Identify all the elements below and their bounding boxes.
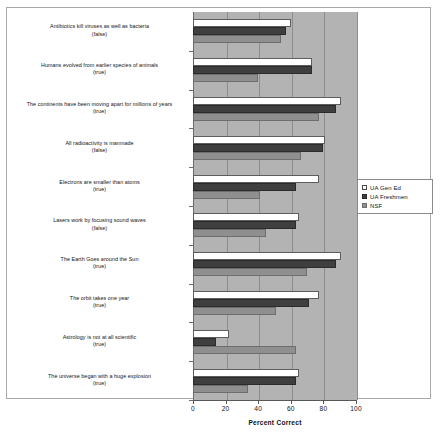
y-axis-tick: [189, 361, 193, 362]
x-axis-tick: [258, 400, 259, 404]
x-axis-tick-label: 60: [278, 405, 304, 412]
category-truth-value: (true): [8, 108, 191, 115]
y-axis-tick: [189, 167, 193, 168]
category-truth-value: (true): [8, 380, 191, 387]
category-question: Lasers work by focusing sound waves: [53, 217, 146, 223]
legend-entry-nsf[interactable]: NSF: [362, 201, 429, 210]
bar: [193, 268, 307, 276]
category-label: Humans evolved from earlier species of a…: [8, 62, 191, 76]
category-question: Astrology is not at all scientific: [63, 334, 137, 340]
bar: [193, 152, 301, 160]
category-label: All radioactivity is manmade(false): [8, 140, 191, 154]
bar: [193, 58, 312, 66]
category-label-column: Antibiotics kill viruses as well as bact…: [8, 12, 191, 400]
category-question: Humans evolved from earlier species of a…: [41, 62, 158, 68]
x-axis-tick-label: 40: [245, 405, 271, 412]
bar: [193, 330, 229, 338]
chart-figure: Antibiotics kill viruses as well as bact…: [0, 0, 440, 448]
category-question: The universe began with a huge explosion: [48, 373, 151, 379]
y-axis-tick: [189, 284, 193, 285]
x-axis-line: [193, 400, 357, 401]
filled-grey-square-icon: [362, 203, 367, 208]
legend-entry-ua-freshmen[interactable]: UA Freshmen: [362, 192, 429, 201]
bar: [193, 27, 286, 35]
category-question: Antibiotics kill viruses as well as bact…: [50, 23, 149, 29]
filled-dark-square-icon: [362, 194, 367, 199]
legend-entry-ua-gen-ed[interactable]: UA Gen Ed: [362, 183, 429, 192]
x-axis-tick-label: 0: [180, 405, 206, 412]
bar: [193, 346, 296, 354]
category-truth-value: (true): [8, 341, 191, 348]
category-question: The orbit takes one year: [70, 295, 129, 301]
category-truth-value: (false): [8, 147, 191, 154]
x-axis-tick: [226, 400, 227, 404]
y-axis-tick: [189, 90, 193, 91]
category-label: Antibiotics kill viruses as well as bact…: [8, 23, 191, 37]
bar: [193, 19, 291, 27]
bar: [193, 229, 266, 237]
bar: [193, 307, 276, 315]
y-axis-tick: [189, 245, 193, 246]
bar: [193, 221, 296, 229]
category-truth-value: (true): [8, 69, 191, 76]
bar: [193, 385, 248, 393]
bar: [193, 369, 299, 377]
category-truth-value: (true): [8, 263, 191, 270]
bar: [193, 338, 216, 346]
x-axis-tick: [193, 400, 194, 404]
x-axis-tick: [356, 400, 357, 404]
legend-label: UA Gen Ed: [370, 185, 401, 191]
x-axis-tick: [323, 400, 324, 404]
y-axis-tick: [189, 51, 193, 52]
bar: [193, 144, 323, 152]
bar: [193, 35, 281, 43]
category-truth-value: (false): [8, 225, 191, 232]
category-question: All radioactivity is manmade: [65, 140, 133, 146]
x-axis-tick-label: 80: [310, 405, 336, 412]
y-axis-tick: [189, 206, 193, 207]
bar: [193, 66, 312, 74]
bar: [193, 213, 299, 221]
category-label: The continents have been moving apart fo…: [8, 101, 191, 115]
category-label: The orbit takes one year(true): [8, 295, 191, 309]
category-question: The Earth Goes around the Sun: [61, 256, 139, 262]
bar: [193, 105, 336, 113]
open-square-icon: [362, 185, 367, 190]
category-truth-value: (true): [8, 186, 191, 193]
chart-legend: UA Gen Ed UA Freshmen NSF: [357, 179, 433, 214]
category-question: The continents have been moving apart fo…: [27, 101, 173, 107]
category-label: Lasers work by focusing sound waves(fals…: [8, 217, 191, 231]
bar: [193, 260, 336, 268]
category-question: Electrons are smaller than atoms: [59, 179, 139, 185]
legend-label: NSF: [370, 203, 382, 209]
x-axis-tick: [291, 400, 292, 404]
category-truth-value: (true): [8, 302, 191, 309]
bar: [193, 175, 319, 183]
category-truth-value: (false): [8, 31, 191, 38]
bar: [193, 183, 296, 191]
bar: [193, 252, 341, 260]
bar: [193, 291, 319, 299]
x-axis-tick-label: 100: [343, 405, 369, 412]
bar: [193, 97, 341, 105]
bar: [193, 377, 296, 385]
y-axis-tick: [189, 128, 193, 129]
category-label: The Earth Goes around the Sun(true): [8, 256, 191, 270]
x-axis-title: Percent Correct: [193, 419, 357, 426]
legend-label: UA Freshmen: [370, 194, 408, 200]
category-label: The universe began with a huge explosion…: [8, 373, 191, 387]
bar: [193, 191, 260, 199]
category-label: Astrology is not at all scientific(true): [8, 334, 191, 348]
bar: [193, 299, 309, 307]
bar: [193, 113, 319, 121]
bar: [193, 136, 325, 144]
y-axis-tick: [189, 322, 193, 323]
category-label: Electrons are smaller than atoms(true): [8, 179, 191, 193]
gridline: [324, 12, 325, 400]
x-axis-tick-label: 20: [213, 405, 239, 412]
bar: [193, 74, 258, 82]
